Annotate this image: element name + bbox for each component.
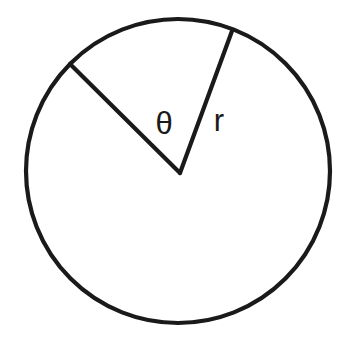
radius-length-label: r [214,103,224,138]
theta-angle-label: θ [155,106,172,141]
geometry-diagram: θ r [0,0,354,341]
circle-sector-figure: θ r [0,0,354,341]
